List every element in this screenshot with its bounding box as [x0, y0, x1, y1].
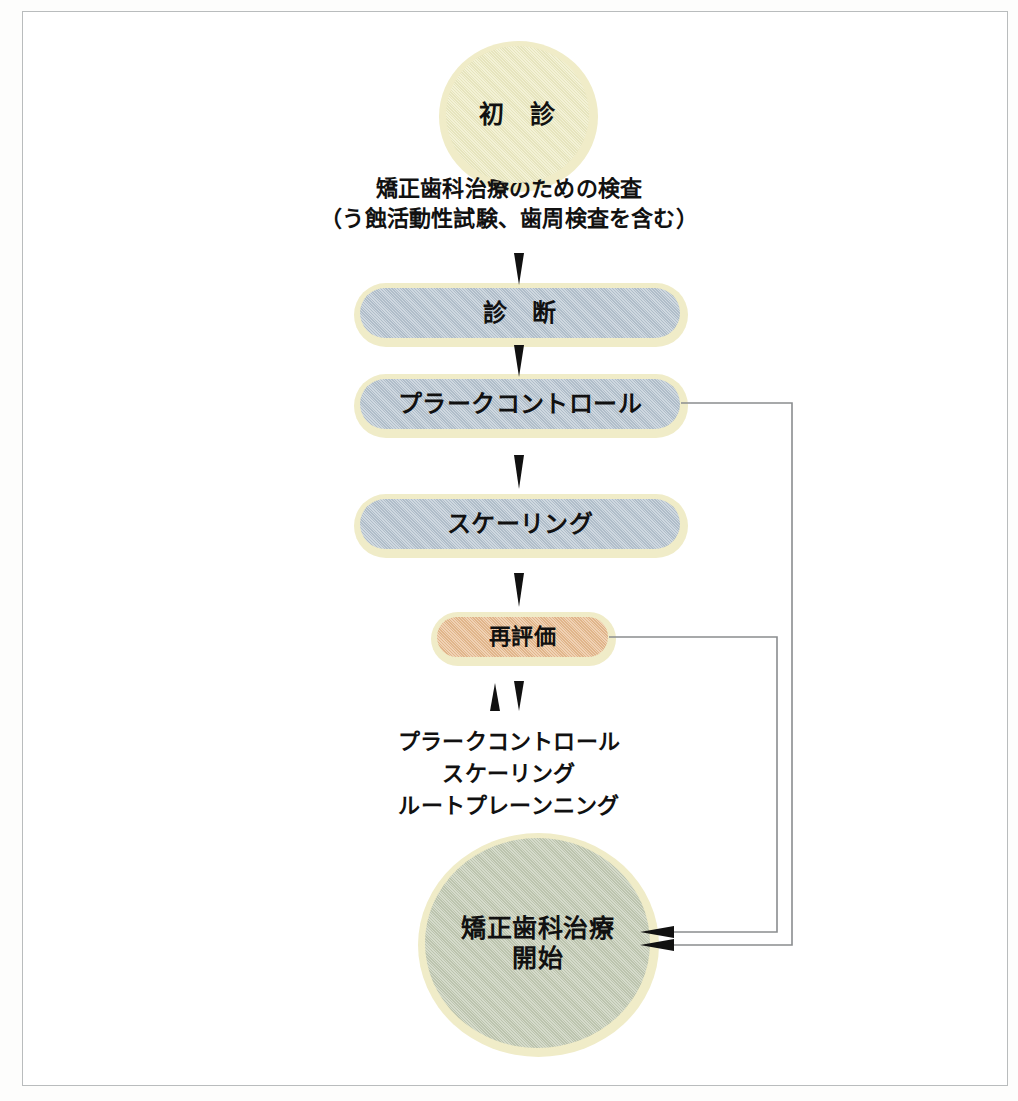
arrow-down-icon	[508, 455, 530, 489]
arrow-down-icon	[508, 253, 530, 285]
scaling-label: スケーリング	[447, 509, 594, 538]
arrow-down-icon	[508, 573, 530, 607]
arrow-down-icon	[508, 345, 530, 377]
arrow-up-icon	[486, 683, 504, 711]
caption-examination: 矯正歯科治療のための検査 （う蝕活動性試験、歯周検査を含む）	[259, 174, 759, 235]
caption-treatment-list: プラークコントロール スケーリング ルートプレーンニング	[319, 726, 699, 822]
node-plaque-control[interactable]: プラークコントロール	[360, 379, 680, 429]
first-visit-label: 初 診	[479, 99, 556, 130]
node-scaling[interactable]: スケーリング	[360, 499, 680, 549]
node-reevaluation[interactable]: 再評価	[437, 617, 608, 657]
plaque-control-label: プラークコントロール	[398, 389, 643, 418]
node-diagnosis[interactable]: 診 断	[360, 288, 680, 338]
arrow-down-icon	[510, 681, 528, 711]
node-treatment-start[interactable]: 矯正歯科治療 開始	[425, 838, 650, 1048]
flowchart-canvas: 初 診 矯正歯科治療のための検査 （う蝕活動性試験、歯周検査を含む） 診 断 プ…	[0, 0, 1018, 1101]
reevaluation-label: 再評価	[489, 624, 556, 651]
node-first-visit[interactable]: 初 診	[446, 46, 589, 183]
diagnosis-label: 診 断	[483, 298, 556, 327]
treatment-start-label: 矯正歯科治療 開始	[461, 913, 614, 974]
arrowhead-left-icon	[640, 936, 674, 954]
